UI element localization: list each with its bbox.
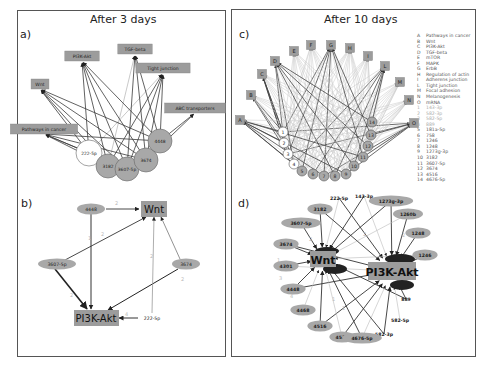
svg-text:A: A bbox=[238, 117, 242, 123]
svg-text:2: 2 bbox=[181, 276, 184, 282]
mirna-node: 143-3p bbox=[355, 194, 374, 199]
svg-text:143-3p: 143-3p bbox=[355, 194, 374, 199]
panel-a-nodes: PI3K-AktTGF-betaTight junctionWntABC tra… bbox=[10, 44, 225, 181]
target-node-pi3k-akt: PI3K-Akt bbox=[74, 310, 119, 326]
mirna-node: 7 bbox=[319, 171, 329, 181]
legend-label: 4516 bbox=[426, 172, 438, 177]
legend-label: MAPK bbox=[426, 61, 439, 66]
svg-text:1273g-3p: 1273g-3p bbox=[379, 199, 404, 204]
pathway-node: G bbox=[327, 41, 336, 50]
mirna-node: 4448 bbox=[280, 284, 305, 295]
mirna-node: 6 bbox=[308, 169, 318, 179]
svg-text:2: 2 bbox=[402, 232, 405, 238]
svg-text:7: 7 bbox=[323, 174, 326, 179]
svg-text:C: C bbox=[260, 71, 264, 77]
svg-text:4676-5p: 4676-5p bbox=[351, 336, 373, 341]
legend-label: 181a-5p bbox=[426, 127, 445, 132]
svg-text:3182: 3182 bbox=[314, 207, 327, 212]
svg-text:8: 8 bbox=[334, 174, 337, 179]
mirna-node: 3607-5p bbox=[38, 259, 76, 270]
svg-text:4468: 4468 bbox=[297, 308, 310, 313]
pathway-node: M bbox=[396, 78, 405, 87]
mirna-node: 11 bbox=[358, 152, 368, 162]
svg-text:11: 11 bbox=[360, 155, 366, 160]
mirna-node: 5 bbox=[297, 166, 307, 176]
pathway-node: N bbox=[405, 96, 414, 105]
svg-text:4516: 4516 bbox=[314, 324, 327, 329]
svg-text:222-5p: 222-5p bbox=[81, 151, 97, 156]
legend-label: 889 bbox=[426, 122, 435, 127]
pathway-node: E bbox=[290, 47, 299, 56]
mirna-node: 4516 bbox=[307, 321, 332, 332]
svg-text:582-5p: 582-5p bbox=[391, 318, 410, 323]
svg-text:4: 4 bbox=[125, 311, 128, 317]
mirna-node: 1273g-3p bbox=[369, 196, 413, 207]
mirna-node: 10 bbox=[349, 161, 359, 171]
svg-text:10: 10 bbox=[351, 164, 357, 169]
svg-text:2: 2 bbox=[115, 200, 118, 206]
svg-text:12: 12 bbox=[365, 144, 371, 149]
svg-text:9: 9 bbox=[345, 172, 348, 177]
mirna-node: 222-5p bbox=[144, 316, 160, 321]
pathway-node: D bbox=[271, 57, 280, 66]
target-node-wnt: Wnt bbox=[141, 201, 167, 217]
legend-label: mRNA bbox=[426, 100, 440, 105]
mirna-node: 3182 bbox=[307, 204, 332, 215]
legend-label: 582-5p bbox=[426, 116, 442, 121]
panel-d-nodes: WntPI3K-Akt222-5p143-3p1273g-3p31821260b… bbox=[273, 194, 437, 344]
svg-text:PI3K-Akt: PI3K-Akt bbox=[73, 54, 92, 59]
svg-text:5: 5 bbox=[301, 169, 304, 174]
mirna-node: 3607-5p bbox=[281, 218, 321, 229]
svg-text:222-5p: 222-5p bbox=[330, 196, 349, 201]
svg-text:2: 2 bbox=[283, 141, 286, 146]
svg-text:222-5p: 222-5p bbox=[144, 316, 160, 321]
legend-row: 144676-5p bbox=[417, 177, 470, 183]
svg-text:3674: 3674 bbox=[140, 158, 151, 163]
pathway-node: Wnt bbox=[31, 79, 49, 89]
pathway-node: A bbox=[236, 116, 245, 125]
panel-b-graph: 2222241WntPI3K-Akt44483607-5p3674222-5p bbox=[38, 200, 200, 326]
legend-label: Regulation of actin bbox=[426, 72, 469, 77]
network-graphs: PI3K-AktTGF-betaTight junctionWntABC tra… bbox=[0, 0, 489, 367]
pathway-node: L bbox=[381, 62, 390, 71]
pathway-node: F bbox=[307, 41, 316, 50]
pathway-node: B bbox=[247, 91, 256, 100]
legend-label: 143-3p bbox=[426, 105, 442, 110]
mirna-node: 8 bbox=[330, 171, 340, 181]
svg-text:F: F bbox=[310, 42, 313, 48]
svg-text:1: 1 bbox=[332, 296, 335, 302]
mirna-node: 9 bbox=[341, 169, 351, 179]
svg-text:Tight junction: Tight junction bbox=[146, 66, 179, 71]
legend-label: 1248 bbox=[426, 144, 438, 149]
mirna-node: 222-5p bbox=[330, 196, 349, 201]
svg-text:L: L bbox=[384, 63, 387, 69]
mirna-node: 2 bbox=[279, 138, 289, 148]
svg-text:3674: 3674 bbox=[280, 242, 293, 247]
mirna-node: 4468 bbox=[290, 305, 315, 316]
svg-text:4: 4 bbox=[293, 162, 296, 167]
svg-text:3182: 3182 bbox=[102, 164, 113, 169]
svg-text:D: D bbox=[273, 58, 277, 64]
svg-text:PI3K-Akt: PI3K-Akt bbox=[365, 266, 418, 279]
svg-text:13: 13 bbox=[368, 133, 374, 138]
pathway-node: PI3K-Akt bbox=[65, 51, 99, 61]
svg-text:O: O bbox=[412, 120, 416, 126]
svg-text:1260b: 1260b bbox=[400, 212, 417, 217]
mirna-node: 889 bbox=[401, 297, 411, 302]
svg-text:ABC transporters: ABC transporters bbox=[175, 106, 215, 111]
legend-label: Melanogenesis bbox=[426, 94, 460, 99]
svg-text:2: 2 bbox=[70, 292, 73, 298]
mirna-node: 1 bbox=[278, 127, 288, 137]
pathway-node: Tight junction bbox=[136, 63, 190, 73]
pathway-node: ABC transporters bbox=[165, 103, 226, 113]
legend-label: Wnt bbox=[426, 39, 435, 44]
svg-text:Wnt: Wnt bbox=[310, 254, 335, 267]
mirna-node: 4448 bbox=[77, 204, 105, 215]
panel-c-legend: APathways in cancerBWntCPI3K-AktDTGF-bet… bbox=[417, 33, 470, 183]
legend-label: 3674 bbox=[426, 166, 438, 171]
pathway-node: TGF-beta bbox=[118, 44, 152, 54]
pathway-node: Pathways in cancer bbox=[10, 124, 77, 134]
hub-node-wnt: Wnt bbox=[310, 251, 336, 267]
legend-label: 582-3p bbox=[426, 111, 442, 116]
pathway-node: I bbox=[364, 52, 373, 61]
